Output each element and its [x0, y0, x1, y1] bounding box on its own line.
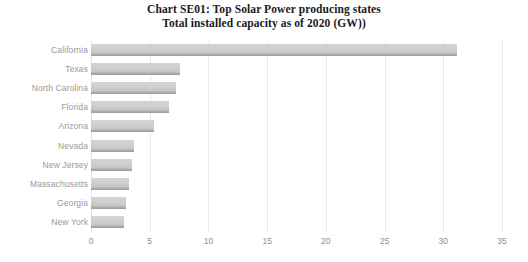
value-axis: 05101520253035: [0, 236, 528, 252]
xtick-label-15: 15: [262, 236, 271, 246]
bar-massachusetts: [91, 178, 129, 190]
category-label-arizona: Arizona: [2, 121, 88, 131]
category-axis: CaliforniaTexasNorth CarolinaFloridaAriz…: [0, 41, 88, 232]
xtick-label-25: 25: [380, 236, 389, 246]
bar-row: [91, 194, 502, 213]
bar-arizona: [91, 120, 154, 132]
category-label-georgia: Georgia: [2, 198, 88, 208]
bar-row: [91, 137, 502, 156]
chart-screenshot: Chart SE01: Top Solar Power producing st…: [0, 0, 528, 262]
category-label-texas: Texas: [2, 64, 88, 74]
chart-title-line-2: Total installed capacity as of 2020 (GW)…: [0, 16, 528, 30]
bar-row: [91, 98, 502, 117]
bar-row: [91, 41, 502, 60]
bar-nevada: [91, 140, 134, 152]
category-label-new-jersey: New Jersey: [2, 160, 88, 170]
xtick-label-35: 35: [497, 236, 506, 246]
chart-title: Chart SE01: Top Solar Power producing st…: [0, 2, 528, 30]
bar-row: [91, 213, 502, 232]
xtick-label-0: 0: [89, 236, 94, 246]
bar-row: [91, 117, 502, 136]
xtick-label-5: 5: [147, 236, 152, 246]
bar-california: [91, 44, 457, 56]
category-label-florida: Florida: [2, 102, 88, 112]
bar-florida: [91, 101, 169, 113]
xtick-label-10: 10: [204, 236, 213, 246]
bar-new-jersey: [91, 159, 132, 171]
bar-texas: [91, 63, 180, 75]
bar-row: [91, 79, 502, 98]
bar-row: [91, 60, 502, 79]
category-label-massachusetts: Massachusetts: [2, 179, 88, 189]
bar-georgia: [91, 197, 126, 209]
category-label-nevada: Nevada: [2, 141, 88, 151]
gridline-35: [502, 41, 503, 232]
bar-north-carolina: [91, 82, 176, 94]
category-label-north-carolina: North Carolina: [2, 83, 88, 93]
category-label-new-york: New York: [2, 217, 88, 227]
bar-row: [91, 156, 502, 175]
bar-row: [91, 175, 502, 194]
xtick-label-30: 30: [439, 236, 448, 246]
category-label-california: California: [2, 45, 88, 55]
plot-area: [91, 41, 502, 232]
xtick-label-20: 20: [321, 236, 330, 246]
chart-title-line-1: Chart SE01: Top Solar Power producing st…: [0, 2, 528, 16]
bar-new-york: [91, 216, 124, 228]
